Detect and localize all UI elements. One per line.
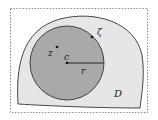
diagram-canvas: z c r ζ D xyxy=(0,0,158,120)
label-d: D xyxy=(113,88,122,99)
label-c: c xyxy=(64,52,69,62)
label-z: z xyxy=(47,48,53,58)
interior-point-z xyxy=(56,46,59,49)
center-point xyxy=(66,62,69,65)
boundary-point-zeta xyxy=(91,36,94,39)
label-r: r xyxy=(81,66,86,76)
